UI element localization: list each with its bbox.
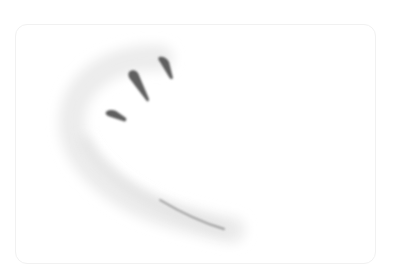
brush-stroke-arc-icon <box>0 0 395 272</box>
